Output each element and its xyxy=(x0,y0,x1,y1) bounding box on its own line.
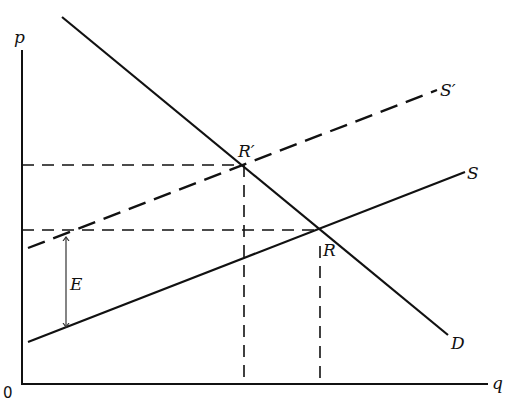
origin-label: 0 xyxy=(3,384,13,402)
shifted-supply-curve xyxy=(28,90,437,248)
p-axis-label: p xyxy=(14,27,25,47)
r-prime-label: R′ xyxy=(237,141,255,161)
demand-label: D xyxy=(450,333,465,353)
e-label: E xyxy=(69,274,83,294)
supply-label: S xyxy=(467,163,479,183)
q-axis-label: q xyxy=(492,373,503,393)
supply-curve xyxy=(28,172,465,342)
supply-demand-diagram: p q 0 D S S′ R′ R E xyxy=(0,0,515,407)
demand-curve xyxy=(62,17,448,335)
shifted-supply-label: S′ xyxy=(440,80,456,100)
r-label: R xyxy=(322,240,336,260)
